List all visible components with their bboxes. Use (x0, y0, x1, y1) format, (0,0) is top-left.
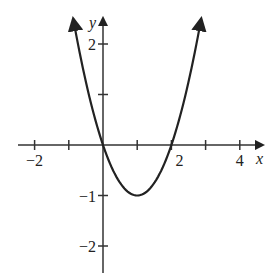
x-axis-label: x (255, 150, 263, 167)
y-tick-label: −1 (79, 188, 96, 205)
x-tick-label: 2 (175, 152, 183, 169)
y-tick-label: 2 (88, 36, 96, 53)
x-tick-label: 4 (236, 152, 244, 169)
x-axis-tick-labels: −224 (26, 152, 244, 169)
y-tick-label: −2 (79, 238, 96, 255)
parabola-graph: −224 2−1−2 x y (0, 0, 275, 273)
y-axis-label: y (87, 14, 97, 32)
x-tick-label: −2 (26, 152, 43, 169)
